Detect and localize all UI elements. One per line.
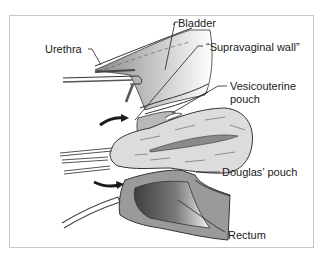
label-urethra: Urethra (45, 43, 82, 55)
label-douglas-pouch: Douglas’ pouch (222, 166, 297, 178)
label-bladder: Bladder (178, 17, 216, 29)
label-vesicouterine-line1: Vesicouterine (230, 80, 296, 92)
upper-curved-arrow-icon (100, 118, 124, 125)
label-vesicouterine-line2: pouch (230, 93, 260, 105)
tenaculum-instruments (60, 148, 112, 174)
label-rectum: Rectum (228, 229, 266, 241)
anatomy-illustration (0, 0, 323, 260)
rectum-shape (119, 170, 230, 240)
lower-probe (62, 197, 120, 228)
lower-curved-arrow-icon (94, 182, 119, 186)
uterus-shape (110, 108, 253, 173)
upper-arrowhead-icon (121, 114, 129, 122)
label-supravaginal-wall: “Supravaginal wall” (206, 41, 300, 53)
